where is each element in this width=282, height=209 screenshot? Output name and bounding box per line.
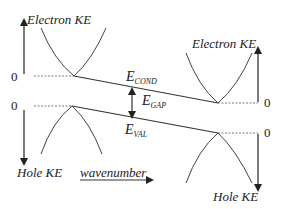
right-cond-zero-label: 0 [264,95,271,110]
right-electron-ke-label: Electron KE [191,36,256,51]
left-conduction-parabola [41,28,106,76]
e-cond-label: ECOND [125,69,157,86]
right-conduction-parabola [186,53,252,103]
right-hole-ke-label: Hole KE [212,189,258,204]
gap-arrow-head-up [128,87,136,95]
left-hole-ke-label: Hole KE [16,165,62,180]
band-diagram: Electron KE Electron KE Hole KE Hole KE … [0,0,282,209]
valence-band-edge [72,106,218,133]
e-val-label: EVAL [124,122,148,139]
e-gap-label: EGAP [141,93,166,110]
wavenumber-arrow-head [146,176,154,184]
right-valence-parabola [186,133,252,183]
left-val-zero-label: 0 [11,98,18,113]
left-valence-parabola [41,106,102,154]
left-electron-ke-label: Electron KE [26,12,91,27]
left-cond-zero-label: 0 [11,69,18,84]
right-val-zero-label: 0 [264,125,271,140]
wavenumber-label: wavenumber [80,165,147,180]
